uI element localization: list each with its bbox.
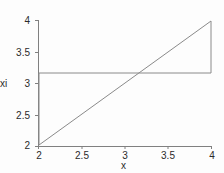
y-axis-title: xi — [0, 79, 7, 89]
x-tick-label-3-5: 3.5 — [155, 151, 181, 161]
x-axis-title: x — [121, 161, 126, 171]
series-diagonal — [39, 21, 211, 145]
y-tick-label-3: 3 — [12, 79, 30, 89]
x-tick-label-2: 2 — [29, 151, 49, 161]
y-tick-label-2: 2 — [12, 141, 30, 151]
x-tick-label-2-5: 2.5 — [69, 151, 95, 161]
plot-canvas — [0, 0, 224, 173]
y-tick-label-4: 4 — [12, 16, 30, 26]
y-tick-label-3-5: 3.5 — [6, 48, 30, 58]
y-tick-label-2-5: 2.5 — [6, 111, 30, 121]
chart-figure: 4 3.5 3 2.5 2 xi 2 2.5 3 3.5 4 x — [0, 0, 224, 173]
y-tick-marks — [35, 21, 38, 147]
x-tick-label-4: 4 — [202, 151, 222, 161]
